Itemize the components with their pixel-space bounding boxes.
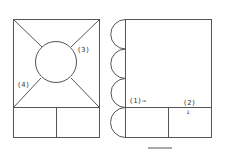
semicircle-4: [111, 108, 126, 138]
semicircle-3: [111, 79, 126, 108]
label-3: (3): [77, 46, 90, 54]
semicircle-2: [111, 49, 126, 79]
semicircle-1: [111, 20, 126, 50]
left-figure: (3) (4): [14, 20, 100, 138]
left-diagonal-bottom-right: [71, 78, 100, 108]
right-figure: (1)→ (2) ↓: [111, 20, 212, 138]
left-circle: [36, 42, 77, 83]
left-diagonal-top-left: [14, 20, 43, 48]
label-1: (1)→: [129, 97, 146, 105]
diagram-canvas: (3) (4) (1)→ (2) ↓: [0, 0, 226, 149]
left-diagonal-top-right: [71, 20, 100, 48]
label-4: (4): [17, 81, 30, 89]
arrow-down-icon: ↓: [186, 108, 190, 116]
label-2: (2): [183, 99, 196, 107]
